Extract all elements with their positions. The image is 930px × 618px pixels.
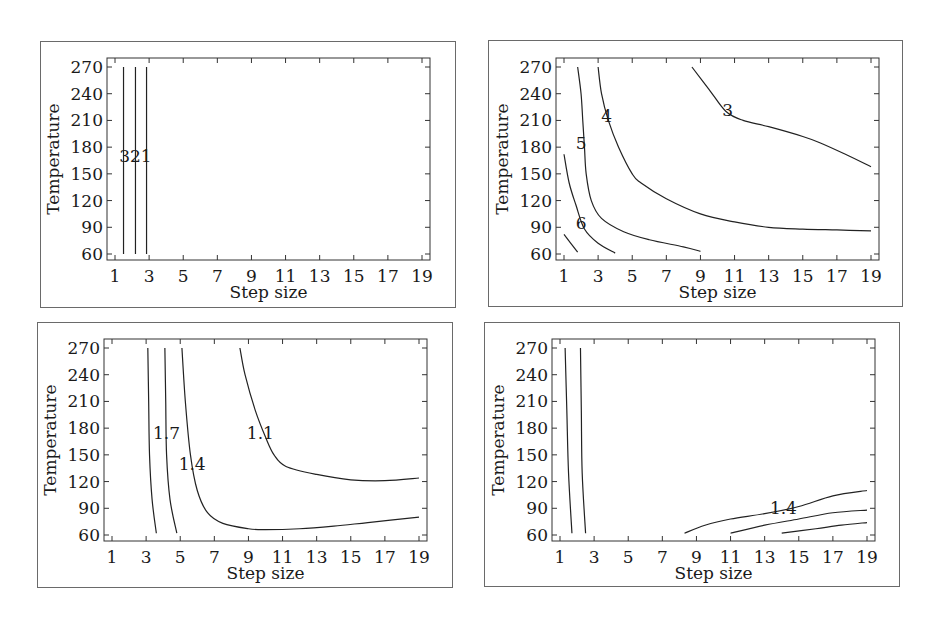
- contour-line: [564, 234, 578, 252]
- y-tick-label: 180: [68, 418, 100, 438]
- x-tick-label: 17: [822, 547, 844, 567]
- y-tick-label: 90: [81, 217, 103, 237]
- y-tick-label: 210: [516, 391, 548, 411]
- x-tick-label: 13: [306, 547, 328, 567]
- y-tick-label: 180: [516, 418, 548, 438]
- x-tick-label: 13: [309, 266, 331, 286]
- contour-label: 6: [576, 213, 587, 233]
- contour-label: 1.7: [153, 423, 180, 443]
- contour-panel-bottom-left: 1357911131517196090120150180210240270Ste…: [37, 322, 453, 588]
- contour-panel-top-left: 1357911131517196090120150180210240270Ste…: [40, 41, 456, 308]
- x-tick-label: 1: [559, 266, 570, 286]
- y-axis-title: Temperature: [43, 103, 63, 214]
- y-tick-label: 90: [530, 217, 552, 237]
- contour-line: [692, 67, 871, 167]
- x-tick-label: 5: [175, 547, 186, 567]
- y-tick-label: 270: [71, 57, 103, 77]
- y-tick-label: 150: [71, 164, 103, 184]
- x-tick-label: 7: [212, 266, 223, 286]
- chart-svg: 1357911131517196090120150180210240270Ste…: [38, 323, 454, 589]
- y-tick-label: 180: [520, 137, 552, 157]
- y-axis-title: Temperature: [492, 103, 512, 214]
- x-tick-label: 17: [377, 266, 399, 286]
- contour-line: [580, 348, 585, 533]
- x-tick-label: 17: [826, 266, 848, 286]
- y-tick-label: 60: [78, 525, 100, 545]
- contour-label: 1.4: [179, 454, 206, 474]
- contour-line: [240, 348, 419, 481]
- y-tick-label: 270: [520, 57, 552, 77]
- x-tick-label: 13: [758, 266, 780, 286]
- contour-label: 5: [576, 133, 587, 153]
- x-tick-label: 3: [141, 547, 152, 567]
- y-axis-title: Temperature: [488, 384, 508, 495]
- y-tick-label: 180: [71, 137, 103, 157]
- y-tick-label: 150: [516, 445, 548, 465]
- contour-line: [598, 67, 871, 231]
- contour-panel-bottom-right: 1357911131517196090120150180210240270Ste…: [484, 322, 900, 587]
- x-tick-label: 19: [408, 547, 430, 567]
- x-tick-label: 1: [107, 547, 118, 567]
- contour-label: 3: [722, 100, 733, 120]
- y-tick-label: 210: [68, 391, 100, 411]
- x-tick-label: 19: [856, 547, 878, 567]
- contour-label: 1.4: [770, 498, 797, 518]
- contour-line: [731, 510, 867, 533]
- x-axis-title: Step size: [229, 282, 307, 302]
- y-tick-label: 270: [516, 338, 548, 358]
- contour-line: [564, 154, 615, 253]
- y-tick-label: 60: [526, 525, 548, 545]
- plot-frame: [552, 339, 875, 541]
- x-tick-label: 15: [343, 266, 365, 286]
- y-tick-label: 120: [520, 191, 552, 211]
- contour-line: [578, 67, 701, 251]
- y-tick-label: 210: [520, 110, 552, 130]
- x-tick-label: 7: [657, 547, 668, 567]
- x-tick-label: 5: [178, 266, 189, 286]
- y-tick-label: 210: [71, 110, 103, 130]
- contour-panel-top-right: 1357911131517196090120150180210240270Ste…: [488, 40, 903, 307]
- x-tick-label: 3: [589, 547, 600, 567]
- x-axis-title: Step size: [678, 282, 756, 302]
- contour-line: [182, 348, 419, 530]
- contour-label: 4: [601, 106, 612, 126]
- y-tick-label: 240: [71, 84, 103, 104]
- x-tick-label: 1: [555, 547, 566, 567]
- chart-svg: 1357911131517196090120150180210240270Ste…: [489, 41, 904, 308]
- y-tick-label: 120: [68, 472, 100, 492]
- contour-line: [782, 523, 867, 534]
- y-tick-label: 90: [78, 498, 100, 518]
- y-tick-label: 240: [516, 365, 548, 385]
- plot-frame: [107, 58, 430, 260]
- x-tick-label: 15: [340, 547, 362, 567]
- y-tick-label: 60: [530, 244, 552, 264]
- y-axis-title: Temperature: [40, 384, 60, 495]
- y-tick-label: 120: [71, 191, 103, 211]
- y-tick-label: 120: [516, 472, 548, 492]
- y-tick-label: 90: [526, 498, 548, 518]
- x-tick-label: 3: [144, 266, 155, 286]
- chart-svg: 1357911131517196090120150180210240270Ste…: [485, 323, 901, 588]
- contour-line: [565, 348, 572, 533]
- y-tick-label: 240: [520, 84, 552, 104]
- x-tick-label: 15: [792, 266, 814, 286]
- contour-label: 1.1: [247, 423, 274, 443]
- y-tick-label: 150: [68, 445, 100, 465]
- x-tick-label: 5: [623, 547, 634, 567]
- contour-label: 321: [119, 146, 151, 166]
- x-tick-label: 7: [209, 547, 220, 567]
- x-tick-label: 19: [411, 266, 433, 286]
- x-tick-label: 15: [788, 547, 810, 567]
- y-tick-label: 270: [68, 338, 100, 358]
- x-tick-label: 17: [374, 547, 396, 567]
- x-tick-label: 19: [860, 266, 882, 286]
- y-tick-label: 60: [81, 244, 103, 264]
- x-axis-title: Step size: [226, 563, 304, 583]
- x-tick-label: 7: [661, 266, 672, 286]
- x-tick-label: 3: [593, 266, 604, 286]
- chart-svg: 1357911131517196090120150180210240270Ste…: [41, 42, 457, 309]
- y-tick-label: 240: [68, 365, 100, 385]
- y-tick-label: 150: [520, 164, 552, 184]
- x-axis-title: Step size: [674, 563, 752, 583]
- x-tick-label: 13: [754, 547, 776, 567]
